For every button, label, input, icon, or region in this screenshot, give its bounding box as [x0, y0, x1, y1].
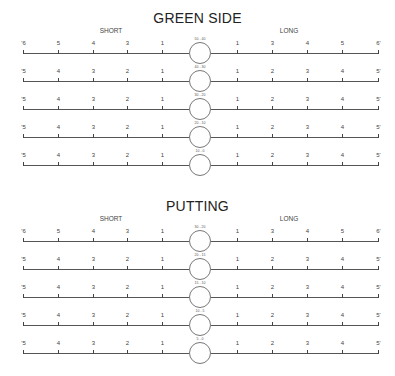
tick-mark: [93, 78, 94, 82]
short-tick-label: '5: [21, 256, 25, 262]
tick-mark: [378, 106, 379, 110]
long-tick-label: 1: [236, 312, 239, 318]
short-tick-label: '5: [21, 340, 25, 346]
short-tick-label: 1: [161, 96, 164, 102]
tick-mark: [272, 294, 273, 298]
short-tick-label: 2: [126, 312, 129, 318]
short-tick-label: 1: [161, 152, 164, 158]
tick-mark: [127, 294, 128, 298]
short-tick-label: '5: [21, 312, 25, 318]
long-tick-label: 1: [236, 152, 239, 158]
short-tick-label: '5: [21, 68, 25, 74]
short-tick-label: 2: [126, 96, 129, 102]
short-tick-label: 4: [57, 68, 60, 74]
tick-mark: [237, 350, 238, 354]
tick-mark: [307, 162, 308, 166]
tick-mark: [378, 350, 379, 354]
tick-mark: [58, 162, 59, 166]
long-tick-label: 2: [271, 96, 274, 102]
short-tick-label: 3: [126, 40, 129, 46]
distance-range-label: 10 - 0: [196, 149, 205, 153]
tick-mark: [307, 238, 308, 242]
long-tick-label: 5': [376, 124, 380, 130]
short-tick-label: 5: [57, 228, 60, 234]
short-tick-label: 2: [126, 68, 129, 74]
distance-range-label: 30 - 20: [195, 225, 206, 229]
long-tick-label: 2: [271, 124, 274, 130]
long-tick-label: 1: [236, 256, 239, 262]
short-tick-label: '5: [21, 124, 25, 130]
tick-mark: [93, 238, 94, 242]
tick-mark: [378, 322, 379, 326]
long-tick-label: 3: [306, 68, 309, 74]
short-tick-label: 3: [92, 68, 95, 74]
long-tick-label: 5': [376, 68, 380, 74]
tick-mark: [307, 106, 308, 110]
long-tick-label: 3: [306, 96, 309, 102]
long-tick-label: 1: [236, 40, 239, 46]
tick-mark: [272, 322, 273, 326]
tick-mark: [162, 350, 163, 354]
tick-mark: [378, 50, 379, 54]
tick-mark: [342, 50, 343, 54]
tick-mark: [23, 350, 24, 354]
short-scale-line: [23, 137, 189, 138]
tick-mark: [378, 266, 379, 270]
tick-mark: [23, 322, 24, 326]
tick-mark: [127, 238, 128, 242]
long-tick-label: 4: [341, 152, 344, 158]
tick-mark: [342, 350, 343, 354]
long-tick-label: 2: [271, 68, 274, 74]
tick-mark: [237, 50, 238, 54]
tick-mark: [378, 78, 379, 82]
long-tick-label: 1: [236, 228, 239, 234]
short-tick-label: 1: [161, 256, 164, 262]
long-tick-label: 5': [376, 284, 380, 290]
target-circle: [189, 98, 211, 120]
short-tick-label: 3: [92, 96, 95, 102]
tick-mark: [58, 238, 59, 242]
distance-range-label: 5 - 0: [196, 337, 203, 341]
distance-range-label: 20 - 15: [195, 253, 206, 257]
tick-mark: [307, 50, 308, 54]
tick-mark: [237, 106, 238, 110]
long-tick-label: 3: [306, 340, 309, 346]
tick-mark: [307, 266, 308, 270]
long-tick-label: 3: [306, 152, 309, 158]
tick-mark: [237, 266, 238, 270]
target-circle: [189, 230, 211, 252]
short-tick-label: 1: [161, 40, 164, 46]
long-tick-label: 3: [271, 228, 274, 234]
long-tick-label: 1: [236, 124, 239, 130]
tick-mark: [162, 162, 163, 166]
long-tick-label: 4: [341, 256, 344, 262]
tick-mark: [272, 350, 273, 354]
long-tick-label: 2: [271, 284, 274, 290]
tick-mark: [23, 106, 24, 110]
tick-mark: [58, 294, 59, 298]
tick-mark: [307, 78, 308, 82]
short-tick-label: 1: [161, 340, 164, 346]
long-tick-label: 4: [341, 96, 344, 102]
short-tick-label: 4: [92, 40, 95, 46]
tick-mark: [162, 266, 163, 270]
tick-mark: [23, 266, 24, 270]
short-tick-label: 3: [92, 312, 95, 318]
tick-mark: [23, 50, 24, 54]
tick-mark: [23, 134, 24, 138]
short-tick-label: 4: [92, 228, 95, 234]
long-tick-label: 1: [236, 96, 239, 102]
short-scale-line: [23, 109, 189, 110]
tick-mark: [127, 106, 128, 110]
tick-mark: [162, 106, 163, 110]
tick-mark: [272, 266, 273, 270]
short-tick-label: 3: [92, 256, 95, 262]
tick-mark: [237, 238, 238, 242]
long-tick-label: 5': [376, 340, 380, 346]
tick-mark: [58, 266, 59, 270]
section-title: GREEN SIDE: [0, 10, 395, 26]
tick-mark: [342, 238, 343, 242]
tick-mark: [272, 50, 273, 54]
tick-mark: [58, 106, 59, 110]
short-tick-label: '5: [21, 284, 25, 290]
